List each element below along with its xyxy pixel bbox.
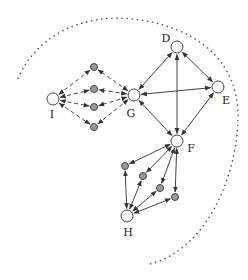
edge-F-s6 <box>146 146 171 172</box>
edge-G-D <box>139 53 172 90</box>
network-diagram: DEGIFH <box>0 0 248 280</box>
node-E <box>212 81 224 93</box>
node-G <box>128 89 140 101</box>
node-s2 <box>91 86 98 93</box>
edges-group <box>59 52 214 213</box>
edge-G-F <box>139 100 172 135</box>
node-D <box>171 41 183 53</box>
node-s6 <box>140 173 147 180</box>
node-label-I: I <box>50 108 54 121</box>
edge-I-s2 <box>60 90 89 97</box>
edge-H-s6 <box>130 181 141 209</box>
edge-F-s7 <box>162 148 175 183</box>
edge-H-s5 <box>125 171 127 209</box>
edge-I-s1 <box>59 70 90 94</box>
node-F <box>171 135 183 147</box>
node-s1 <box>91 64 98 71</box>
edge-I-s4 <box>59 103 90 124</box>
labels-group: DEGIFH <box>50 32 230 239</box>
node-s4 <box>91 124 98 131</box>
edge-E-F <box>182 93 214 135</box>
node-H <box>121 210 133 222</box>
node-label-F: F <box>187 142 195 155</box>
edge-F-s8 <box>175 148 177 192</box>
node-label-E: E <box>222 94 230 107</box>
node-label-H: H <box>123 226 133 239</box>
node-label-D: D <box>162 32 171 45</box>
edge-I-s3 <box>60 100 89 106</box>
edge-G-E <box>141 88 210 95</box>
node-I <box>47 93 59 105</box>
node-s8 <box>172 194 179 201</box>
node-s3 <box>91 104 98 111</box>
node-s5 <box>122 163 129 170</box>
node-s7 <box>157 185 164 192</box>
edge-D-E <box>182 52 212 82</box>
edge-G-s2 <box>99 90 127 94</box>
node-label-G: G <box>127 107 136 120</box>
edge-G-s1 <box>98 70 128 91</box>
edge-G-s4 <box>98 100 128 124</box>
